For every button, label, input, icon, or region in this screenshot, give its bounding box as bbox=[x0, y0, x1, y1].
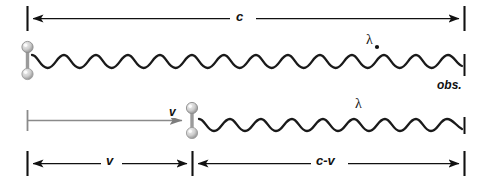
label-dimension-v: v bbox=[103, 154, 116, 167]
label-wavelength-bottom: λ bbox=[355, 97, 362, 111]
doppler-effect-figure: c λ obs. v λ v c-v bbox=[0, 0, 484, 180]
label-velocity-arrow-v: v bbox=[166, 106, 179, 118]
moving-source-emitter bbox=[186, 102, 197, 138]
label-observer: obs. bbox=[434, 79, 465, 91]
stationary-source-emitter bbox=[22, 41, 33, 79]
velocity-arrow-v bbox=[28, 110, 183, 131]
label-dimension-c-minus-v: c-v bbox=[313, 154, 338, 167]
figure-canvas bbox=[0, 0, 484, 180]
top-lightwave bbox=[32, 45, 465, 76]
bottom-lightwave bbox=[199, 117, 465, 134]
label-wavelength-top: λ bbox=[366, 33, 373, 47]
label-speed-of-light-c: c bbox=[233, 10, 246, 23]
